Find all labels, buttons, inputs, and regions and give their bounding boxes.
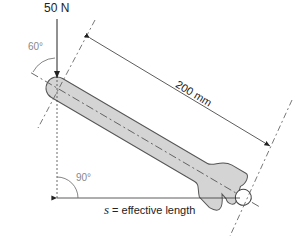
force-label: 50 N	[44, 1, 69, 15]
angle-60-label: 60°	[28, 41, 43, 52]
effective-length-text: = effective length	[109, 204, 195, 216]
wrench-torque-diagram: 50 N 60° 90° 200 mm s = effective length	[0, 0, 297, 242]
effective-length-label: s = effective length	[104, 202, 195, 218]
angle-90-label: 90°	[76, 172, 91, 183]
